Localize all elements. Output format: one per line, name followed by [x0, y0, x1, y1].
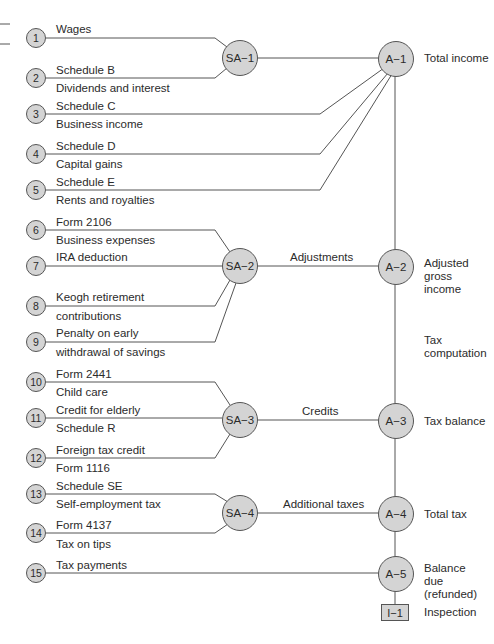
- source-node-10: 10: [26, 372, 46, 392]
- source-node-2: 2: [26, 68, 46, 88]
- source-label-bottom: withdrawal of savings: [56, 346, 165, 359]
- source-label-top: Form 2106: [56, 216, 112, 229]
- assembly-node-a4: A−4: [378, 496, 414, 532]
- assembly-label-total-income: Total income: [424, 52, 489, 65]
- source-node-12: 12: [26, 448, 46, 468]
- source-label-top: Tax payments: [56, 559, 127, 572]
- source-label-top: IRA deduction: [56, 251, 128, 264]
- assembly-label-tax-balance: Tax balance: [424, 415, 485, 428]
- source-node-8: 8: [26, 296, 46, 316]
- source-node-9: 9: [26, 332, 46, 352]
- source-label-top: Foreign tax credit: [56, 444, 145, 457]
- source-node-3: 3: [26, 104, 46, 124]
- source-label-bottom: Form 1116: [56, 462, 110, 475]
- assembly-node-a3: A−3: [378, 403, 414, 439]
- source-label-bottom: Rents and royalties: [56, 194, 154, 207]
- source-node-11: 11: [26, 408, 46, 428]
- source-node-14: 14: [26, 523, 46, 543]
- source-node-4: 4: [26, 144, 46, 164]
- subassembly-node-sa4: SA−4: [222, 495, 258, 531]
- source-label-top: Schedule SE: [56, 480, 123, 493]
- source-label-top: Schedule E: [56, 176, 115, 189]
- assembly-node-a1: A−1: [378, 41, 414, 77]
- source-label-top: Penalty on early: [56, 327, 138, 340]
- edge-label-additional-taxes: Additional taxes: [283, 498, 364, 511]
- source-label-bottom: Tax on tips: [56, 538, 111, 551]
- subassembly-node-sa3: SA−3: [222, 402, 258, 438]
- assembly-node-a5: A−5: [378, 556, 414, 592]
- source-label-top: Schedule C: [56, 100, 115, 113]
- segment-label-tax-computation: Tax computation: [424, 334, 494, 360]
- source-node-7: 7: [26, 256, 46, 276]
- assembly-label-total-tax: Total tax: [424, 508, 467, 521]
- source-label-bottom: Child care: [56, 386, 108, 399]
- source-label-top: Keogh retirement: [56, 291, 144, 304]
- assembly-node-a2: A−2: [378, 249, 414, 285]
- source-label-top: Form 4137: [56, 519, 112, 532]
- source-label-bottom: Capital gains: [56, 158, 122, 171]
- source-node-13: 13: [26, 484, 46, 504]
- edge-label-credits: Credits: [302, 405, 338, 418]
- source-node-6: 6: [26, 220, 46, 240]
- edge-label-adjustments: Adjustments: [290, 251, 353, 264]
- assembly-label-balance-due: Balance due (refunded): [424, 562, 486, 601]
- source-label-top: Credit for elderly: [56, 404, 140, 417]
- source-label-bottom: Schedule R: [56, 422, 115, 435]
- source-label-top: Schedule D: [56, 140, 115, 153]
- source-label-top: Form 2441: [56, 368, 112, 381]
- source-label-bottom: contributions: [56, 310, 121, 323]
- source-label-bottom: Business income: [56, 118, 143, 131]
- source-label-top: Wages: [56, 23, 91, 36]
- source-label-bottom: Self-employment tax: [56, 498, 161, 511]
- source-node-15: 15: [26, 563, 46, 583]
- source-label-top: Schedule B: [56, 64, 115, 77]
- source-label-bottom: Business expenses: [56, 234, 155, 247]
- subassembly-node-sa2: SA−2: [222, 248, 258, 284]
- source-label-bottom: Dividends and interest: [56, 82, 170, 95]
- inspection-label: Inspection: [424, 606, 476, 619]
- assembly-label-agi: Adjusted gross income: [424, 257, 492, 296]
- source-node-5: 5: [26, 180, 46, 200]
- source-node-1: 1: [26, 28, 46, 48]
- subassembly-node-sa1: SA−1: [222, 40, 258, 76]
- inspection-node: I−1: [381, 604, 409, 621]
